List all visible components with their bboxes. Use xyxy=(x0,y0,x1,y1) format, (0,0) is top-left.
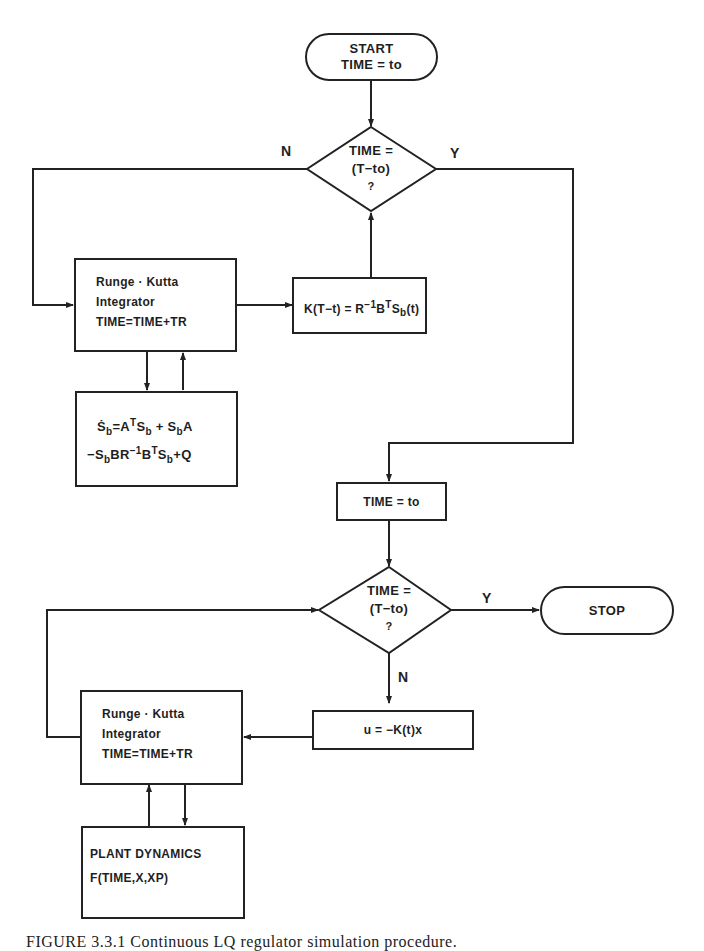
riccati-end: A xyxy=(183,419,193,434)
control-law-box: u = −K(t)x xyxy=(312,710,474,750)
decision1-line2: (T−to) xyxy=(331,161,411,177)
gain-formula: K(T−t) = R−1BTSb(t) xyxy=(304,297,419,321)
riccati2-b: B xyxy=(142,447,152,462)
rk1-line2: Integrator xyxy=(96,294,155,310)
riccati-equation-box: Ṡb=ATSb + SbA −SbBR−1BTSb+Q xyxy=(75,391,238,487)
decision1-line3: ? xyxy=(331,178,411,194)
decision2-yes-label: Y xyxy=(482,590,491,606)
decision1-line1: TIME = xyxy=(331,143,411,159)
rk1-line1: Runge · Kutta xyxy=(96,274,179,290)
plant-line2: F(TIME,X,XP) xyxy=(90,870,168,886)
stop-label: STOP xyxy=(589,603,625,619)
riccati-line1: Ṡb=ATSb + SbA xyxy=(97,415,193,440)
control-law-label: u = −K(t)x xyxy=(314,722,472,738)
riccati-line2: −SbBR−1BTSb+Q xyxy=(87,443,192,468)
figure-caption: FIGURE 3.3.1 Continuous LQ regulator sim… xyxy=(26,933,457,951)
gain-text-s: S xyxy=(392,302,400,316)
decision1-yes-label: Y xyxy=(450,145,459,161)
stop-terminal: STOP xyxy=(540,586,674,635)
decision2-line2: (T−to) xyxy=(349,601,429,617)
runge-kutta-integrator-2: Runge · Kutta Integrator TIME=TIME+TR xyxy=(80,690,243,785)
plant-line1: PLANT DYNAMICS xyxy=(90,846,202,862)
riccati2-br: BR xyxy=(110,447,129,462)
rk2-line1: Runge · Kutta xyxy=(102,706,185,722)
riccati-plus: + S xyxy=(152,419,177,434)
start-time-label: TIME = to xyxy=(341,57,402,73)
reset-time-label: TIME = to xyxy=(338,494,445,510)
riccati-eq: =A xyxy=(112,419,130,434)
gain-text-main: K(T−t) = R xyxy=(304,302,364,316)
riccati2-end: +Q xyxy=(173,447,191,462)
start-terminal: START TIME = to xyxy=(305,33,438,81)
gain-box: K(T−t) = R−1BTSb(t) xyxy=(292,277,427,334)
runge-kutta-integrator-1: Runge · Kutta Integrator TIME=TIME+TR xyxy=(74,258,237,352)
riccati2-start: −S xyxy=(87,447,104,462)
decision2-line1: TIME = xyxy=(349,583,429,599)
riccati2-sup1: −1 xyxy=(130,445,142,456)
rk1-line3: TIME=TIME+TR xyxy=(96,314,187,330)
riccati2-s: S xyxy=(158,447,167,462)
riccati-sdot: Ṡ xyxy=(97,419,106,434)
plant-dynamics-box: PLANT DYNAMICS F(TIME,X,XP) xyxy=(81,826,245,919)
start-label: START xyxy=(350,41,394,57)
gain-text-b: B xyxy=(376,302,385,316)
rk2-line3: TIME=TIME+TR xyxy=(102,746,193,762)
rk2-line2: Integrator xyxy=(102,726,161,742)
reset-time-box: TIME = to xyxy=(336,482,447,521)
gain-sup-inverse: −1 xyxy=(364,299,376,310)
gain-text-end: (t) xyxy=(406,302,419,316)
decision2-no-label: N xyxy=(398,669,408,685)
decision2-line3: ? xyxy=(349,618,429,634)
decision1-no-label: N xyxy=(281,143,291,159)
